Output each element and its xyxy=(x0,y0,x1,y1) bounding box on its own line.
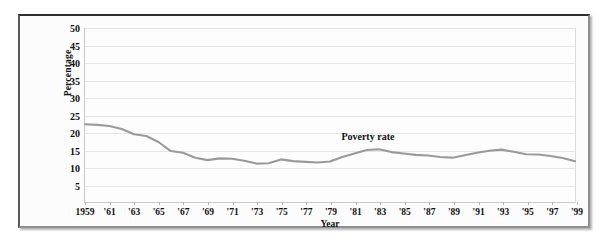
x-axis-tick xyxy=(208,202,209,205)
y-axis-tick-label: 25 xyxy=(70,110,80,121)
x-axis-tick-label: '99 xyxy=(571,207,583,217)
x-axis-tick xyxy=(528,202,529,205)
x-axis-tick-label: '63 xyxy=(128,207,140,217)
y-axis-tick-label: 40 xyxy=(70,58,80,69)
x-axis-tick xyxy=(380,202,381,205)
x-axis-tick xyxy=(110,202,111,205)
x-axis-tick-label: '93 xyxy=(497,207,509,217)
x-axis-tick xyxy=(503,202,504,205)
x-axis-tick xyxy=(405,202,406,205)
x-axis-tick xyxy=(479,202,480,205)
x-axis-tick xyxy=(282,202,283,205)
x-axis-tick-label: '91 xyxy=(473,207,485,217)
x-axis-tick xyxy=(577,202,578,205)
y-axis-tick-label: 5 xyxy=(75,180,80,191)
x-axis-tick-label: '87 xyxy=(423,207,435,217)
x-axis-tick xyxy=(454,202,455,205)
x-axis-tick xyxy=(183,202,184,205)
x-axis-tick-label: '95 xyxy=(522,207,534,217)
x-axis-tick xyxy=(134,202,135,205)
plot-area: 5101520253035404550 1959'61'63'65'67'69'… xyxy=(84,28,576,203)
x-axis-tick-label: '61 xyxy=(104,207,116,217)
x-axis-tick-label: '65 xyxy=(153,207,165,217)
poverty-rate-line-series xyxy=(85,28,575,202)
x-axis-tick-label: '71 xyxy=(227,207,239,217)
x-axis-tick xyxy=(306,202,307,205)
x-axis-tick-label: '97 xyxy=(546,207,558,217)
x-axis-title: Year xyxy=(85,219,575,229)
x-axis-tick-label: '81 xyxy=(350,207,362,217)
x-axis-tick xyxy=(429,202,430,205)
x-axis-tick xyxy=(331,202,332,205)
x-axis-tick-label: 1959 xyxy=(76,207,95,217)
y-axis-tick-label: 35 xyxy=(70,75,80,86)
x-axis-tick-label: '67 xyxy=(177,207,189,217)
x-axis-tick-label: '77 xyxy=(300,207,312,217)
x-axis-tick xyxy=(159,202,160,205)
poverty-rate-annotation: Poverty rate xyxy=(341,131,394,142)
chart-figure-inner: Percentage 5101520253035404550 1959'61'6… xyxy=(20,16,588,226)
x-axis-tick-label: '79 xyxy=(325,207,337,217)
y-axis-tick-label: 15 xyxy=(70,145,80,156)
chart-figure: Percentage 5101520253035404550 1959'61'6… xyxy=(18,14,590,228)
y-axis-tick-label: 10 xyxy=(70,163,80,174)
x-axis-tick xyxy=(233,202,234,205)
y-axis-tick-label: 50 xyxy=(70,23,80,34)
x-axis-tick xyxy=(356,202,357,205)
y-axis-tick-label: 45 xyxy=(70,40,80,51)
y-axis-tick-label: 30 xyxy=(70,93,80,104)
x-axis-tick-label: '69 xyxy=(202,207,214,217)
x-axis-tick-label: '73 xyxy=(251,207,263,217)
x-axis-tick xyxy=(257,202,258,205)
y-axis-tick-label: 20 xyxy=(70,128,80,139)
x-axis-tick xyxy=(85,202,86,205)
x-axis-tick-label: '85 xyxy=(399,207,411,217)
x-axis-tick-label: '89 xyxy=(448,207,460,217)
x-axis-tick xyxy=(552,202,553,205)
x-axis-tick-label: '75 xyxy=(276,207,288,217)
x-axis-tick-label: '83 xyxy=(374,207,386,217)
